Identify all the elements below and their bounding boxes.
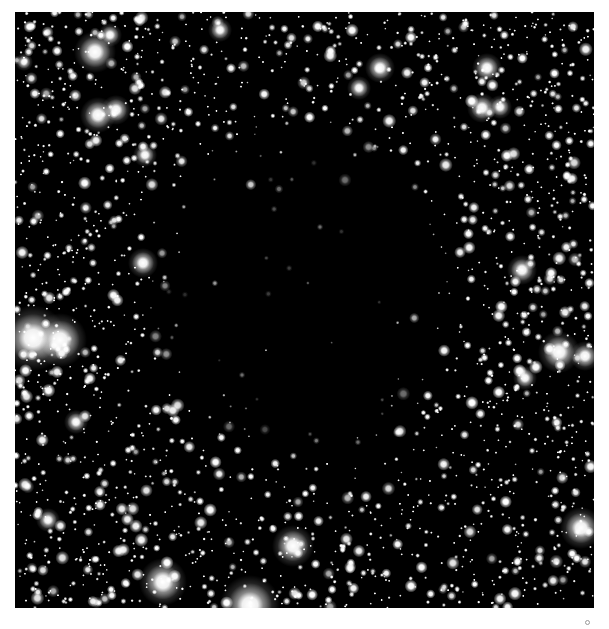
starfield-image <box>15 12 594 608</box>
dark-nebula-canvas <box>15 12 594 608</box>
small-circle-marker-icon <box>585 620 590 625</box>
